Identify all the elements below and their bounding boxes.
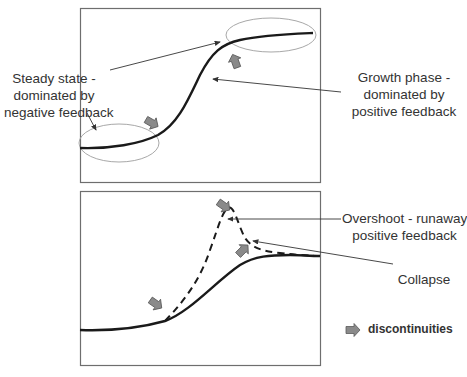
steady-state-label: Steady state - dominated by negative fee…: [4, 70, 104, 121]
overshoot-line-1: Overshoot - runaway: [342, 210, 467, 227]
overshoot-line-2: positive feedback: [342, 227, 467, 244]
steady-state-pointer: [110, 42, 220, 70]
discontinuity-arrow-icon: [226, 52, 243, 70]
steady-state-ellipse: [79, 124, 159, 162]
growth-curve: [80, 33, 313, 148]
bottom-panel-frame: [81, 192, 321, 366]
steady-state-line-1: Steady state -: [4, 70, 104, 87]
steady-state-line-2: dominated by: [4, 87, 104, 104]
steady-state-line-3: negative feedback: [4, 104, 104, 121]
legend-label: discontinuities: [368, 322, 453, 336]
collapse-pointer: [253, 241, 393, 264]
growth-phase-label: Growth phase - dominated by positive fee…: [344, 69, 464, 120]
collapse-label: Collapse: [394, 271, 454, 288]
growth-phase-line-2: dominated by: [344, 86, 464, 103]
discontinuity-arrow-icon: [143, 114, 162, 132]
diagram-canvas: [0, 0, 467, 377]
overshoot-label: Overshoot - runaway positive feedback: [342, 210, 467, 244]
discontinuity-arrow-icon: [147, 295, 166, 314]
growth-phase-line-1: Growth phase -: [344, 69, 464, 86]
growth-phase-line-3: positive feedback: [344, 103, 464, 120]
sustained-curve: [80, 255, 320, 330]
growth-phase-pointer: [213, 79, 341, 92]
legend-block-arrow-icon: [346, 324, 360, 337]
